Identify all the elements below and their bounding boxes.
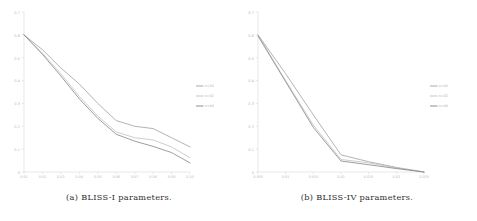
- x-tick-label: 0.06: [112, 175, 120, 179]
- y-tick-label: 0.1: [14, 148, 20, 152]
- series-line-n32: [258, 35, 424, 172]
- legend-label-n32: n=32: [439, 94, 448, 98]
- y-tick-label: 0.7: [248, 11, 254, 15]
- x-tick-label: 0.03: [393, 175, 401, 179]
- x-tick-label: 0.015: [308, 175, 318, 179]
- series-line-n16: [258, 35, 424, 172]
- chart-bliss-iv-canvas: 00.10.20.30.40.50.60.70.0050.010.0150.02…: [238, 0, 476, 196]
- x-tick-label: 0.09: [168, 175, 176, 179]
- legend-label-n32: n=32: [205, 94, 214, 98]
- y-tick-label: 0.3: [14, 102, 20, 106]
- x-tick-label: 0.10: [186, 175, 194, 179]
- y-tick-label: 0.2: [248, 125, 254, 129]
- legend-label-n64: n=64: [205, 104, 214, 108]
- y-tick-label: 0.4: [248, 79, 254, 83]
- y-tick-label: 0.3: [248, 102, 254, 106]
- figure-two-panel-charts: 00.10.20.30.40.50.60.70.010.020.030.040.…: [0, 0, 477, 221]
- caption-panel-a: (a) BLISS-I parameters.: [0, 192, 238, 202]
- chart-bliss-i: 00.10.20.30.40.50.60.70.010.020.030.040.…: [0, 0, 238, 196]
- x-tick-label: 0.035: [419, 175, 429, 179]
- series-line-n32: [24, 35, 190, 158]
- y-tick-label: 0.5: [14, 57, 20, 61]
- chart-bliss-i-canvas: 00.10.20.30.40.50.60.70.010.020.030.040.…: [0, 0, 238, 196]
- y-tick-label: 0.4: [14, 79, 20, 83]
- y-tick-label: 0.6: [14, 34, 20, 38]
- x-tick-label: 0.07: [131, 175, 139, 179]
- y-tick-label: 0.6: [248, 34, 254, 38]
- y-tick-label: 0.2: [14, 125, 20, 129]
- x-tick-label: 0.02: [39, 175, 47, 179]
- x-tick-label: 0.02: [337, 175, 345, 179]
- panel-bliss-i: 00.10.20.30.40.50.60.70.010.020.030.040.…: [0, 0, 238, 221]
- x-tick-label: 0.05: [94, 175, 102, 179]
- x-tick-label: 0.025: [364, 175, 374, 179]
- x-tick-label: 0.01: [282, 175, 290, 179]
- caption-panel-b: (b) BLISS-IV parameters.: [238, 192, 476, 202]
- y-tick-label: 0.1: [248, 148, 254, 152]
- y-tick-label: 0: [252, 171, 255, 175]
- chart-bliss-iv: 00.10.20.30.40.50.60.70.0050.010.0150.02…: [238, 0, 476, 196]
- legend-label-n16: n=16: [439, 84, 448, 88]
- legend-label-n64: n=64: [439, 104, 448, 108]
- y-tick-label: 0: [18, 171, 21, 175]
- x-tick-label: 0.01: [20, 175, 28, 179]
- y-tick-label: 0.5: [248, 57, 254, 61]
- y-tick-label: 0.7: [14, 11, 20, 15]
- legend-label-n16: n=16: [205, 84, 214, 88]
- panel-bliss-iv: 00.10.20.30.40.50.60.70.0050.010.0150.02…: [238, 0, 476, 221]
- x-tick-label: 0.08: [149, 175, 157, 179]
- series-line-n16: [24, 35, 190, 147]
- x-tick-label: 0.005: [253, 175, 263, 179]
- series-line-n64: [258, 36, 424, 172]
- x-tick-label: 0.04: [76, 175, 84, 179]
- x-tick-label: 0.03: [57, 175, 65, 179]
- series-line-n64: [24, 35, 190, 163]
